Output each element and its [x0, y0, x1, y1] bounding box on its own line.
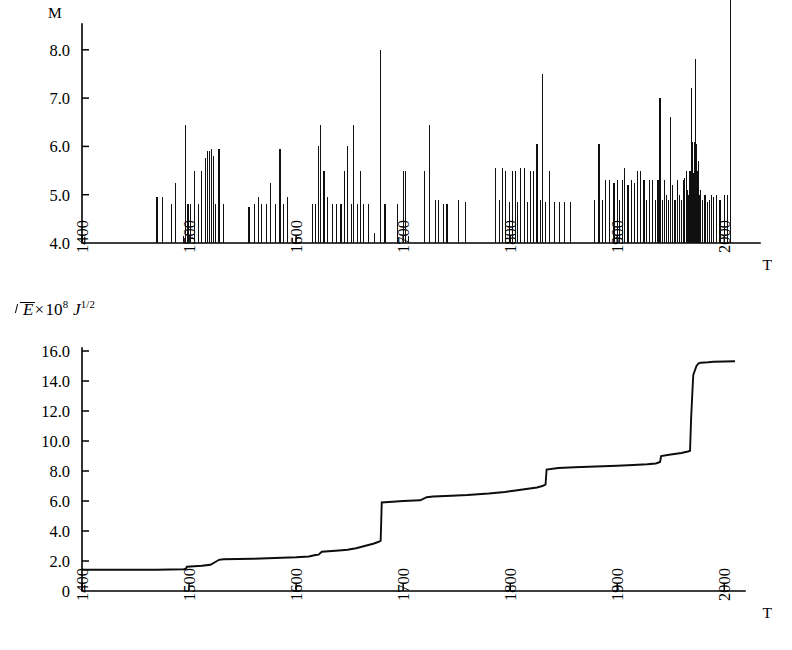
energy-axis-lines	[82, 348, 745, 591]
energy-panel: 02.04.06.08.010.012.014.016.014001500160…	[0, 300, 792, 650]
energy-x-tick-label: 1500	[180, 568, 199, 601]
energy-x-axis-label: T	[763, 604, 773, 621]
magnitude-y-tick-label: 5.0	[49, 186, 70, 205]
magnitude-x-axis-label: T	[763, 256, 773, 273]
energy-y-tick-label: 14.0	[41, 372, 70, 391]
energy-y-tick-label: 16.0	[41, 342, 70, 361]
energy-label-exponent: 8	[63, 298, 69, 310]
energy-x-tick-label: 1600	[287, 568, 306, 601]
cumulative-energy-curve	[82, 361, 735, 570]
energy-plot-area: 02.04.06.08.010.012.014.016.014001500160…	[0, 300, 792, 650]
energy-y-tick-label: 8.0	[49, 462, 70, 481]
magnitude-x-tick-label: 1500	[180, 220, 199, 253]
energy-x-tick-label: 1900	[608, 568, 627, 601]
magnitude-x-tick-label: 1600	[287, 220, 306, 253]
energy-label-unit: J	[73, 300, 81, 319]
magnitude-x-tick-label: 1400	[73, 220, 92, 253]
magnitude-y-tick-label: 6.0	[49, 137, 70, 156]
energy-x-tick-label: 2000	[715, 568, 734, 601]
energy-label-unit-exponent: 1/2	[81, 298, 96, 310]
figure-root: 4.05.06.07.08.01400150016001700180019002…	[0, 0, 792, 650]
magnitude-y-tick-label: 7.0	[49, 89, 70, 108]
energy-x-tick-label: 1700	[394, 568, 413, 601]
energy-label-times: ×	[34, 300, 46, 319]
energy-x-tick-label: 1400	[73, 568, 92, 601]
energy-y-tick-label: 10.0	[41, 432, 70, 451]
magnitude-y-tick-label: 4.0	[49, 234, 70, 253]
energy-y-axis-label: E×108 J1/2	[14, 300, 95, 318]
energy-x-tick-label: 1800	[501, 568, 520, 601]
energy-label-radicand: E	[23, 300, 34, 319]
magnitude-y-tick-label: 8.0	[49, 41, 70, 60]
energy-y-tick-label: 0	[62, 582, 70, 601]
energy-y-tick-label: 4.0	[49, 522, 70, 541]
magnitude-y-axis-label: M	[48, 4, 62, 21]
energy-y-tick-label: 2.0	[49, 552, 70, 571]
magnitude-x-tick-label: 1800	[501, 220, 520, 253]
energy-label-base: 10	[45, 300, 62, 319]
energy-y-tick-label: 6.0	[49, 492, 70, 511]
magnitude-plot-area: 4.05.06.07.08.01400150016001700180019002…	[0, 0, 792, 300]
magnitude-panel: 4.05.06.07.08.01400150016001700180019002…	[0, 0, 792, 300]
magnitude-bar-series	[157, 0, 731, 243]
energy-y-tick-label: 12.0	[41, 402, 70, 421]
